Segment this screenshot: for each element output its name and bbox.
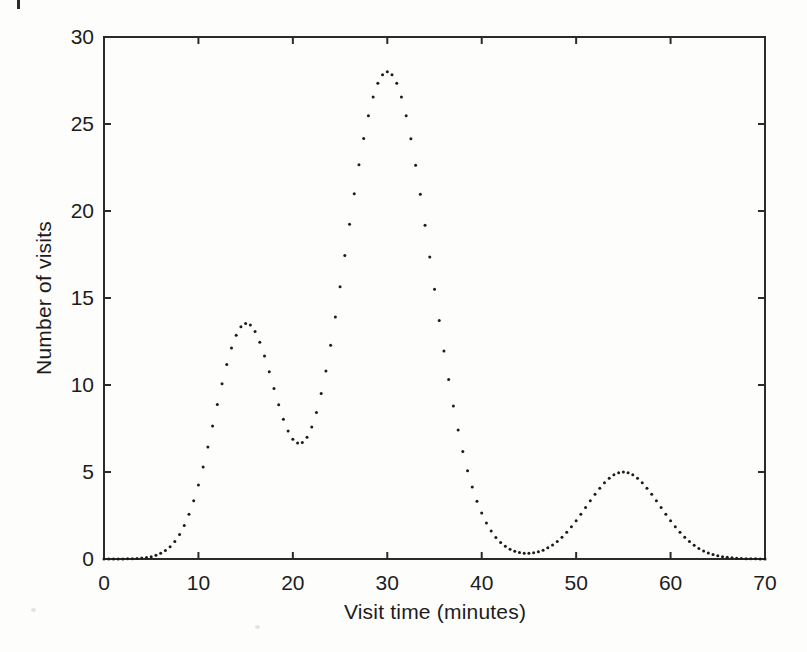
data-point [395, 82, 398, 85]
data-point [121, 557, 124, 560]
data-point [367, 114, 370, 117]
data-point [150, 555, 153, 558]
data-point [282, 418, 285, 421]
data-point [258, 341, 261, 344]
data-point [504, 545, 507, 548]
y-tick-label: 0 [38, 547, 94, 571]
data-point [197, 483, 200, 486]
data-point [466, 469, 469, 472]
data-point [169, 545, 172, 548]
data-point [320, 392, 323, 395]
data-point [683, 536, 686, 539]
x-axis-title: Visit time (minutes) [344, 600, 526, 624]
scanned-chart-page: Number of visits Visit time (minutes) 05… [0, 0, 807, 652]
data-point [159, 552, 162, 555]
data-point [730, 556, 733, 559]
y-tick-label: 15 [38, 286, 94, 310]
data-point [268, 370, 271, 373]
data-point [424, 224, 427, 227]
data-point [575, 519, 578, 522]
data-point [277, 403, 280, 406]
data-point [509, 548, 512, 551]
data-point [636, 477, 639, 480]
x-tick-label: 0 [74, 571, 134, 595]
data-point [594, 493, 597, 496]
data-point [178, 533, 181, 536]
data-point [202, 465, 205, 468]
data-point [249, 324, 252, 327]
data-point [650, 493, 653, 496]
data-point [749, 557, 752, 560]
data-point [343, 254, 346, 257]
data-point [542, 549, 545, 552]
data-point [442, 349, 445, 352]
data-point [230, 346, 233, 349]
data-point [339, 285, 342, 288]
data-point [527, 552, 530, 555]
data-point [400, 96, 403, 99]
data-point [154, 554, 157, 557]
data-point [702, 549, 705, 552]
data-point [494, 536, 497, 539]
data-point [485, 521, 488, 524]
data-point [679, 531, 682, 534]
data-point [409, 137, 412, 140]
data-point [669, 519, 672, 522]
x-tick-label: 10 [168, 571, 228, 595]
data-point [107, 557, 110, 560]
data-point [419, 193, 422, 196]
data-point [726, 556, 729, 559]
y-tick-label: 30 [38, 25, 94, 49]
data-point [716, 554, 719, 557]
data-point [735, 557, 738, 560]
data-point [674, 525, 677, 528]
data-point [612, 473, 615, 476]
data-point [707, 551, 710, 554]
data-point [697, 547, 700, 550]
data-point [301, 441, 304, 444]
data-point [221, 382, 224, 385]
data-point [103, 557, 106, 560]
x-tick-label: 60 [641, 571, 701, 595]
data-point [438, 319, 441, 322]
data-point [310, 426, 313, 429]
data-point [603, 481, 606, 484]
data-point [206, 446, 209, 449]
data-point [254, 330, 257, 333]
data-point [551, 543, 554, 546]
data-point [357, 163, 360, 166]
data-point [126, 557, 129, 560]
data-point [428, 256, 431, 259]
data-point [579, 513, 582, 516]
data-point [645, 487, 648, 490]
data-point [136, 557, 139, 560]
plot-frame [104, 37, 765, 559]
plot-canvas [0, 0, 807, 652]
data-point [764, 557, 767, 560]
data-point [183, 524, 186, 527]
x-tick-label: 40 [452, 571, 512, 595]
scan-speck [255, 625, 260, 629]
data-point [754, 557, 757, 560]
scan-speck [31, 608, 36, 612]
data-point [532, 551, 535, 554]
data-point [490, 529, 493, 532]
data-point [655, 499, 658, 502]
data-point [475, 500, 478, 503]
x-tick-label: 20 [263, 571, 323, 595]
data-point [239, 325, 242, 328]
data-point [693, 544, 696, 547]
data-point [164, 549, 167, 552]
data-point [348, 223, 351, 226]
data-point [447, 378, 450, 381]
data-point [461, 450, 464, 453]
data-point [523, 552, 526, 555]
data-point [381, 73, 384, 76]
data-point [513, 550, 516, 553]
data-point [480, 512, 483, 515]
data-point [537, 550, 540, 553]
data-point [598, 487, 601, 490]
x-tick-label: 30 [357, 571, 417, 595]
data-point [315, 411, 318, 414]
data-point [721, 555, 724, 558]
